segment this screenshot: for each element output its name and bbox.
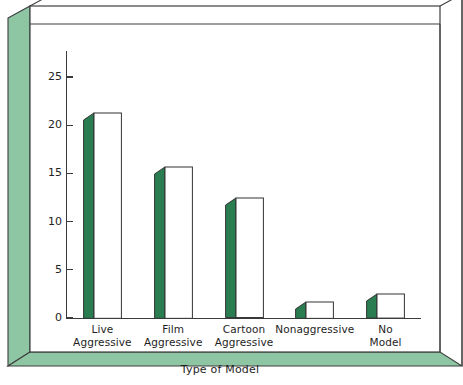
bar (295, 294, 334, 319)
bar (225, 190, 264, 319)
y-tick-label: 15 (30, 166, 62, 179)
bar-side-face (154, 167, 164, 318)
y-tick-label: 5 (30, 263, 62, 276)
frame-right-edge (440, 0, 462, 6)
y-tick-label: 25 (30, 70, 62, 83)
bar-side-face (225, 198, 235, 318)
y-tick-label: 20 (30, 118, 62, 131)
frame-left-panel (8, 6, 30, 366)
bar-series (67, 25, 421, 319)
bar (366, 286, 405, 319)
bar-front-face (377, 294, 404, 318)
bar (154, 159, 193, 319)
bar-side-face (367, 294, 377, 318)
bar (83, 105, 122, 319)
y-tick-label: 10 (30, 215, 62, 228)
bar-chart-figure: 0510152025 LiveAggressiveFilmAggressiveC… (0, 0, 463, 385)
bar-side-face (83, 113, 93, 318)
bar-front-face (94, 113, 121, 318)
plot-area: 0510152025 LiveAggressiveFilmAggressiveC… (30, 25, 442, 345)
bar-side-face (296, 302, 306, 318)
bar-front-face (165, 167, 192, 318)
bar-front-face (236, 198, 263, 318)
bar-front-face (306, 302, 333, 318)
x-axis-title: Type of Model (30, 363, 410, 376)
x-category-label: NoModel (338, 323, 433, 349)
x-axis-category-labels: LiveAggressiveFilmAggressiveCartoonAggre… (67, 323, 421, 363)
